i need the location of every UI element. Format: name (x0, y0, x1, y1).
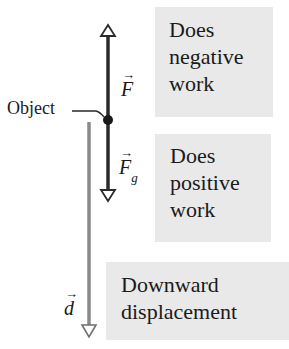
box-text-line: Does (170, 142, 271, 169)
object-dot-icon (103, 115, 113, 125)
box-text-line: work (169, 70, 273, 97)
box-text-line: work (170, 196, 271, 223)
box-text-line: displacement (121, 298, 289, 325)
negative-work-box: Does negative work (155, 7, 273, 117)
positive-work-box: Does positive work (155, 134, 271, 242)
displacement-label: → d (64, 297, 74, 320)
applied-force-label: → F (121, 78, 133, 101)
displacement-box: Downward displacement (106, 262, 289, 340)
box-text-line: positive (170, 169, 271, 196)
gravity-force-label: → Fg (119, 156, 138, 183)
box-text-line: Does (169, 16, 273, 43)
vector-arrow-icon: → (120, 145, 133, 161)
gravity-force-arrowhead-icon (101, 190, 115, 201)
object-label: Object (7, 98, 55, 119)
displacement-arrowhead-icon (82, 325, 96, 337)
box-text-line: Downward (121, 271, 289, 298)
applied-force-arrowhead-icon (101, 25, 115, 36)
gravity-subscript: g (131, 170, 138, 185)
vector-arrow-icon: → (65, 286, 78, 302)
box-text-line: negative (169, 43, 273, 70)
object-leader-line (72, 111, 104, 117)
vector-arrow-icon: → (122, 67, 135, 83)
